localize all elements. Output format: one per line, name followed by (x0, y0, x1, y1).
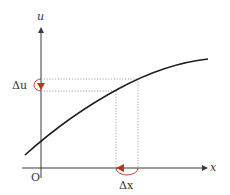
y-axis-label: u (37, 10, 44, 23)
delta-u-indicator (34, 79, 45, 91)
origin-label: O (31, 171, 40, 184)
x-axis-label: x (210, 161, 217, 174)
dotted-guides (41, 79, 138, 172)
delta-x-label: Δx (119, 179, 134, 192)
derivative-diagram: u x O Δu Δx (0, 0, 230, 195)
delta-x-indicator (116, 164, 138, 175)
delta-u-label: Δu (12, 79, 27, 92)
function-curve (25, 59, 208, 155)
